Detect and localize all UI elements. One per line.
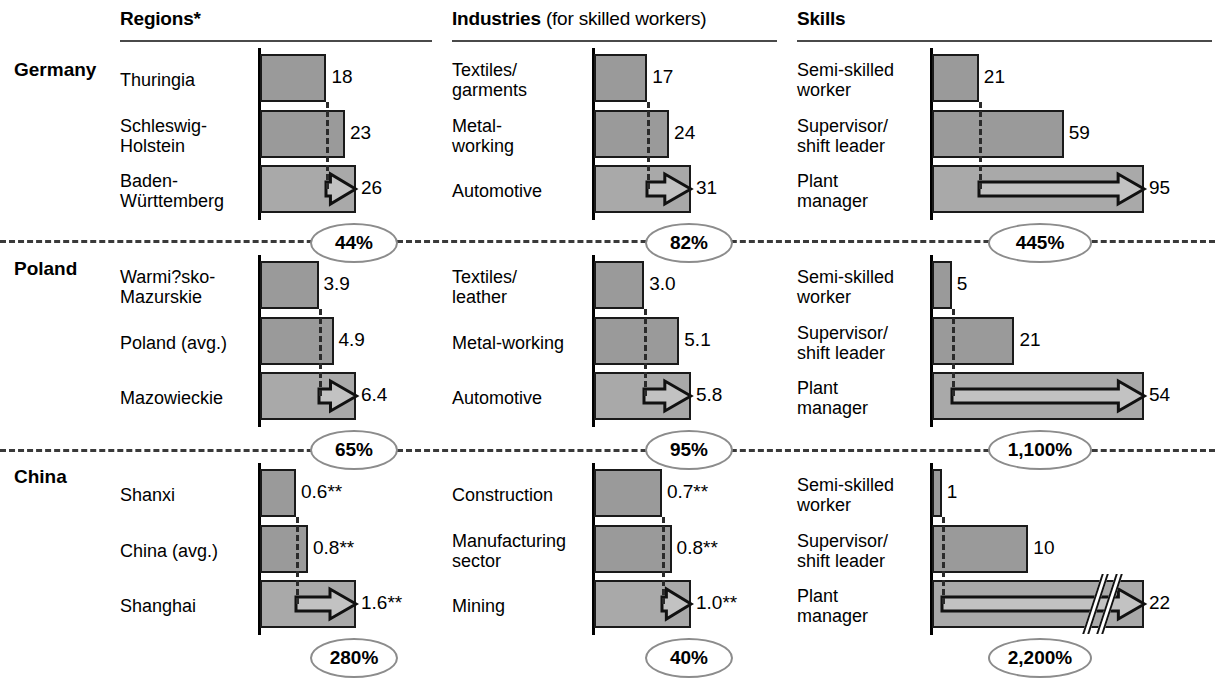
reference-dashed-line <box>979 102 982 189</box>
header-rule-regions <box>120 40 432 42</box>
bar-value-label: 22 <box>1149 592 1170 614</box>
bar <box>594 54 647 102</box>
category-label: Baden- Württemberg <box>120 171 252 211</box>
bar <box>594 261 644 309</box>
category-label: Poland (avg.) <box>120 333 252 353</box>
reference-dashed-line <box>662 517 665 604</box>
bar-value-label: 3.9 <box>324 273 350 295</box>
reference-dashed-line <box>319 309 322 396</box>
reference-dashed-line <box>296 517 299 604</box>
bar <box>932 525 1028 573</box>
growth-arrow-icon <box>662 589 691 619</box>
category-label: Warmi?sko- Mazurskie <box>120 267 252 307</box>
reference-dashed-line <box>952 309 955 396</box>
category-label: Supervisor/ shift leader <box>797 323 924 363</box>
bar-value-label: 21 <box>984 66 1005 88</box>
bar-value-label: 54 <box>1149 384 1170 406</box>
column-header-regions: Regions* <box>120 8 201 30</box>
growth-arrow-icon <box>647 174 691 204</box>
bar-value-label: 95 <box>1149 177 1170 199</box>
bar-value-label: 23 <box>350 122 371 144</box>
bar <box>594 469 662 517</box>
growth-arrow-icon <box>296 589 356 619</box>
category-label: Shanghai <box>120 596 252 616</box>
growth-arrow-icon <box>979 174 1144 204</box>
growth-arrow-icon <box>644 381 691 411</box>
bar <box>932 317 1014 365</box>
bar <box>260 469 296 517</box>
country-label-poland: Poland <box>14 258 77 280</box>
spread-percent-badge: 445% <box>988 223 1092 263</box>
bar-value-label: 10 <box>1033 537 1054 559</box>
country-label-china: China <box>14 466 67 488</box>
column-title-skills: Skills <box>797 8 845 29</box>
column-header-skills: Skills <box>797 8 845 30</box>
bar-value-label: 24 <box>674 122 695 144</box>
bar-value-label: 1 <box>947 481 958 503</box>
bar-value-label: 1.0** <box>696 592 737 614</box>
category-label: China (avg.) <box>120 541 252 561</box>
category-label: Manufacturing sector <box>452 531 586 571</box>
category-label: Thuringia <box>120 70 252 90</box>
bar <box>594 525 672 573</box>
bar-value-label: 21 <box>1019 329 1040 351</box>
bar-value-label: 0.8** <box>313 537 354 559</box>
growth-arrow-icon <box>952 381 1144 411</box>
country-label-germany: Germany <box>14 59 96 81</box>
bar-value-label: 5.8 <box>696 384 722 406</box>
category-label: Plant manager <box>797 378 924 418</box>
growth-arrow-icon <box>326 174 356 204</box>
bar <box>932 110 1064 158</box>
column-header-industries: Industries (for skilled workers) <box>452 8 706 30</box>
category-label: Schleswig- Holstein <box>120 116 252 156</box>
bar <box>594 110 669 158</box>
bar <box>932 54 979 102</box>
spread-percent-badge: 65% <box>310 430 398 470</box>
bar-value-label: 5.1 <box>684 329 710 351</box>
category-label: Textiles/ leather <box>452 267 586 307</box>
reference-dashed-line <box>942 517 945 604</box>
category-label: Supervisor/ shift leader <box>797 531 924 571</box>
bar-value-label: 17 <box>652 66 673 88</box>
bar-value-label: 26 <box>361 177 382 199</box>
bar-value-label: 6.4 <box>361 384 387 406</box>
reference-dashed-line <box>326 102 329 189</box>
category-label: Semi-skilled worker <box>797 267 924 307</box>
reference-dashed-line <box>644 309 647 396</box>
bar <box>260 110 345 158</box>
bar <box>932 261 952 309</box>
category-label: Automotive <box>452 181 586 201</box>
header-rule-industries <box>452 40 777 42</box>
spread-percent-badge: 2,200% <box>988 638 1092 678</box>
spread-percent-badge: 44% <box>310 223 398 263</box>
bar-value-label: 18 <box>331 66 352 88</box>
bar-value-label: 0.7** <box>667 481 708 503</box>
bar <box>260 317 334 365</box>
bar-value-label: 1.6** <box>361 592 402 614</box>
column-subtitle-industries: (for skilled workers) <box>541 8 707 29</box>
reference-dashed-line <box>647 102 650 189</box>
bar-value-label: 59 <box>1069 122 1090 144</box>
category-label: Mazowieckie <box>120 388 252 408</box>
spread-percent-badge: 40% <box>645 638 733 678</box>
growth-arrow-icon <box>319 381 357 411</box>
column-title-industries: Industries <box>452 8 541 29</box>
category-label: Metal- working <box>452 116 586 156</box>
bar <box>932 469 942 517</box>
bar <box>260 54 326 102</box>
category-label: Supervisor/ shift leader <box>797 116 924 156</box>
bar-value-label: 5 <box>957 273 968 295</box>
bar-value-label: 0.6** <box>301 481 342 503</box>
bar <box>594 317 679 365</box>
category-label: Textiles/ garments <box>452 60 586 100</box>
category-label: Semi-skilled worker <box>797 60 924 100</box>
spread-percent-badge: 82% <box>645 223 733 263</box>
category-label: Automotive <box>452 388 586 408</box>
bar-value-label: 4.9 <box>339 329 365 351</box>
spread-percent-badge: 280% <box>310 638 398 678</box>
category-label: Metal-working <box>452 333 586 353</box>
category-label: Mining <box>452 596 586 616</box>
category-label: Shanxi <box>120 485 252 505</box>
category-label: Semi-skilled worker <box>797 475 924 515</box>
